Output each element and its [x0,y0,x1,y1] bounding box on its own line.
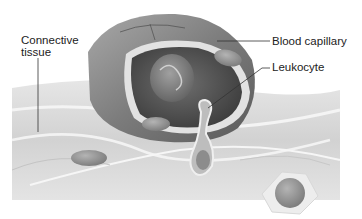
label-connective-tissue-line2: tissue [21,46,79,58]
label-leukocyte: Leukocyte [272,61,324,73]
capillary-illustration [0,0,362,219]
label-connective-tissue-line1: Connective [21,34,79,46]
label-blood-capillary: Blood capillary [272,35,347,47]
label-connective-tissue: Connective tissue [21,34,79,58]
blood-capillary-illustration [88,14,255,142]
